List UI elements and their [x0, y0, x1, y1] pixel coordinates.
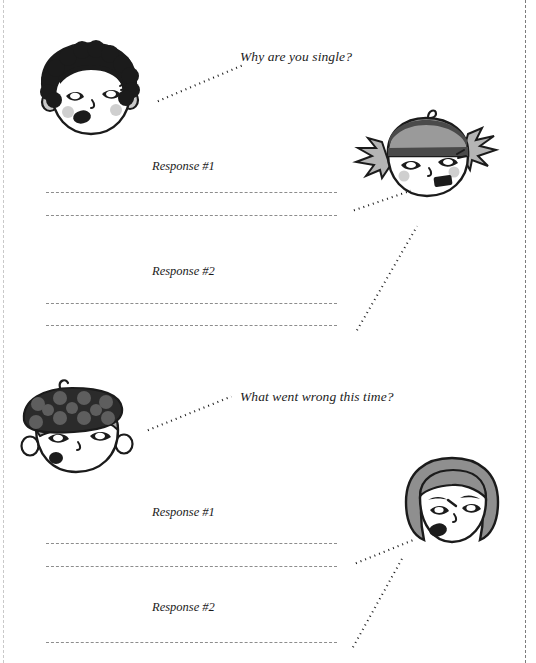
leader-line-response-2a — [355, 226, 418, 333]
afro-character-head — [26, 40, 148, 145]
leader-line-question-2 — [146, 396, 232, 432]
response-label-2-1: Response #1 — [152, 505, 215, 520]
writing-rule-2-1-b[interactable] — [46, 566, 337, 567]
leader-line-response-2b — [351, 558, 403, 650]
polka-dot-beret-character-head — [14, 378, 144, 484]
writing-rule-1-1-b[interactable] — [46, 215, 337, 216]
writing-rule-1-2-a[interactable] — [46, 303, 337, 304]
leader-line-question-1 — [156, 64, 245, 103]
response-label-1-2: Response #2 — [152, 264, 215, 279]
writing-rule-1-1-a[interactable] — [46, 192, 337, 193]
worksheet-page: Why are you single? — [0, 0, 536, 663]
writing-rule-2-1-a[interactable] — [46, 543, 337, 544]
cut-line-left — [3, 0, 4, 663]
response-label-2-2: Response #2 — [152, 600, 215, 615]
response-label-1-1: Response #1 — [152, 159, 215, 174]
question-2: What went wrong this time? — [240, 389, 394, 405]
cut-line-right — [525, 0, 526, 663]
writing-rule-1-2-b[interactable] — [46, 325, 337, 326]
question-1: Why are you single? — [240, 49, 352, 65]
striped-beanie-character-head — [350, 110, 500, 205]
writing-rule-2-2-a[interactable] — [46, 642, 337, 643]
